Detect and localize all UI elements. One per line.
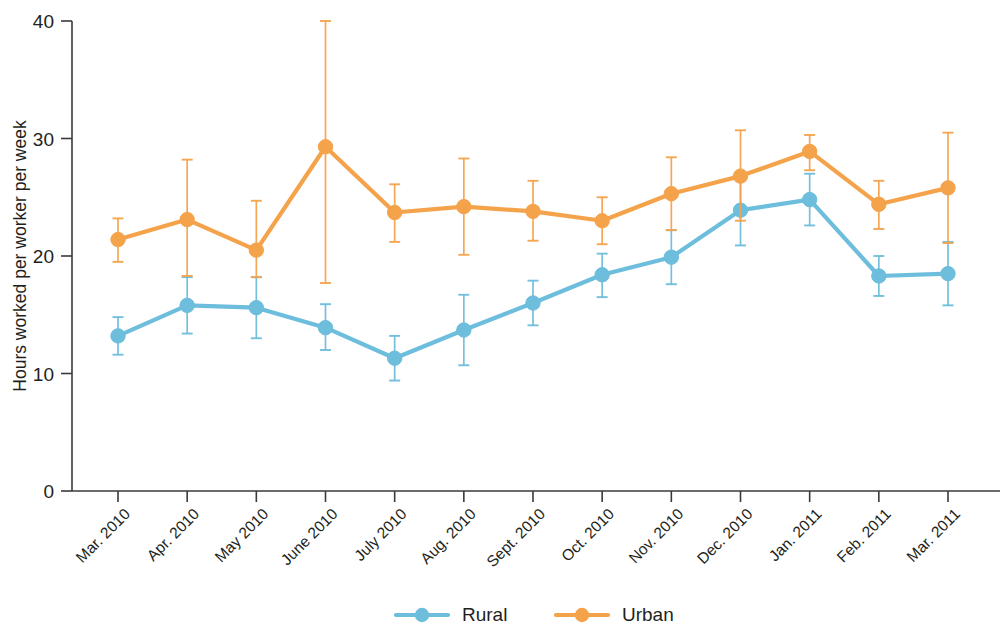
y-axis-tick-label: 30 <box>33 129 54 150</box>
x-axis-tick-label: Mar. 2011 <box>903 505 963 565</box>
data-point-marker[interactable] <box>941 266 955 280</box>
x-axis-tick-label: Sept. 2010 <box>483 505 548 570</box>
error-bar <box>251 201 262 277</box>
y-axis-tick-label: 0 <box>43 481 54 502</box>
data-point-marker[interactable] <box>111 232 125 246</box>
data-point-marker[interactable] <box>180 212 194 226</box>
data-point-marker[interactable] <box>111 329 125 343</box>
y-axis-tick-label: 40 <box>33 11 54 32</box>
data-point-marker[interactable] <box>526 296 540 310</box>
legend-label: Urban <box>622 604 674 625</box>
data-point-marker[interactable] <box>733 169 747 183</box>
legend-swatch-marker <box>575 608 589 622</box>
line-chart-plot: 010203040Hours worked per worker per wee… <box>0 0 1005 631</box>
chart-figure: 010203040Hours worked per worker per wee… <box>0 0 1005 631</box>
x-axis-tick-label: June 2010 <box>277 505 340 568</box>
data-point-marker[interactable] <box>318 140 332 154</box>
series-urban <box>111 21 955 283</box>
data-point-marker[interactable] <box>457 323 471 337</box>
data-point-marker[interactable] <box>872 197 886 211</box>
data-point-marker[interactable] <box>387 205 401 219</box>
data-point-marker[interactable] <box>180 298 194 312</box>
data-point-marker[interactable] <box>664 187 678 201</box>
x-axis-tick-label: Mar. 2010 <box>72 505 133 566</box>
y-axis-tick-label: 10 <box>33 364 54 385</box>
legend-swatch-marker <box>415 608 429 622</box>
x-axis-tick-label: Feb. 2011 <box>833 505 894 566</box>
data-point-marker[interactable] <box>526 204 540 218</box>
data-point-marker[interactable] <box>872 269 886 283</box>
data-point-marker[interactable] <box>802 192 816 206</box>
x-axis-tick-label: Aug. 2010 <box>417 505 479 567</box>
data-point-marker[interactable] <box>941 181 955 195</box>
x-axis-tick-label: July 2010 <box>351 505 410 564</box>
y-axis-title: Hours worked per worker per week <box>10 120 30 392</box>
data-point-marker[interactable] <box>595 214 609 228</box>
legend-label: Rural <box>462 604 507 625</box>
data-point-marker[interactable] <box>387 351 401 365</box>
legend-item-rural[interactable]: Rural <box>396 604 507 625</box>
y-axis-tick-label: 20 <box>33 246 54 267</box>
x-axis-tick-label: Nov. 2010 <box>625 505 686 566</box>
data-point-marker[interactable] <box>318 320 332 334</box>
x-axis-tick-label: Dec. 2010 <box>694 505 756 567</box>
data-point-marker[interactable] <box>249 301 263 315</box>
data-point-marker[interactable] <box>249 243 263 257</box>
data-point-marker[interactable] <box>802 144 816 158</box>
data-point-marker[interactable] <box>457 199 471 213</box>
x-axis-tick-label: May 2010 <box>211 505 271 565</box>
data-point-marker[interactable] <box>664 250 678 264</box>
x-axis-tick-label: Jan. 2011 <box>765 505 824 564</box>
x-axis-tick-label: Oct. 2010 <box>558 505 618 565</box>
x-axis-tick-label: Apr. 2010 <box>143 505 202 564</box>
legend-item-urban[interactable]: Urban <box>556 604 674 625</box>
data-point-marker[interactable] <box>595 268 609 282</box>
